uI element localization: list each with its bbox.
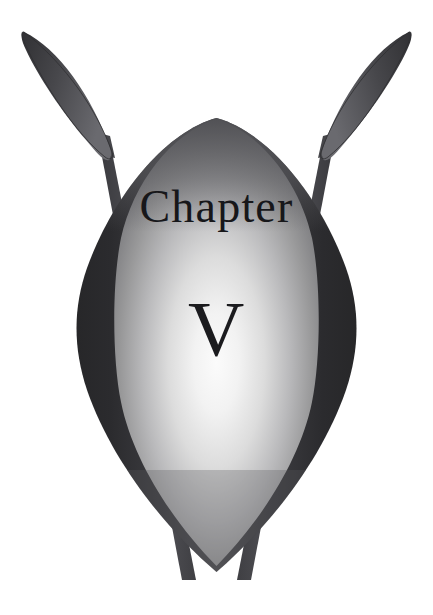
left-spear-blade-body (22, 32, 111, 158)
chapter-label: Chapter (139, 181, 293, 232)
chapter-numeral: V (188, 285, 245, 372)
chapter-heading-page: Chapter V (0, 0, 433, 615)
shield-foot-shading (70, 470, 363, 580)
right-spear-blade-body (322, 32, 411, 158)
crossed-spears-shield-emblem: Chapter V (0, 0, 433, 615)
